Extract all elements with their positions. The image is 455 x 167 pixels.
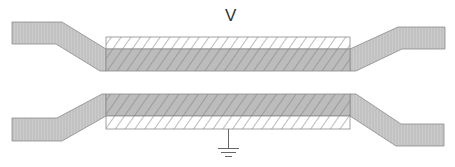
bottom-left-lead <box>12 94 106 141</box>
top-left-lead <box>12 22 106 71</box>
voltage-label: V <box>225 6 236 26</box>
top-electrode-plate <box>106 49 350 71</box>
ground-icon <box>218 129 239 157</box>
bottom-right-lead <box>350 94 444 146</box>
bottom-electrode-plate <box>106 94 350 116</box>
bottom-dielectric-layer <box>106 116 350 129</box>
top-dielectric-layer <box>106 37 350 49</box>
top-right-lead <box>350 27 445 71</box>
